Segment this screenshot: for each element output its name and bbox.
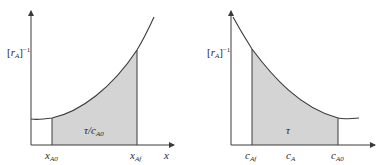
- left-tick-x-a0: xA0: [44, 149, 58, 163]
- left-plot: [rA]−1 τ/cA0 xA0 xAf x: [7, 11, 174, 163]
- right-tick-c-af: cAf: [245, 149, 257, 163]
- levenspiel-plots: [rA]−1 τ/cA0 xA0 xAf x [rA]−1 τ: [0, 0, 380, 165]
- left-x-axis-label: x: [163, 149, 169, 161]
- right-tick-c-a: cA: [286, 149, 296, 163]
- left-tick-x-af: xAf: [129, 149, 142, 163]
- right-plot: [rA]−1 τ cAf cA cA0: [207, 11, 375, 163]
- right-tick-c-a0: cA0: [331, 149, 344, 163]
- left-y-axis-label: [rA]−1: [7, 46, 31, 60]
- right-shaded-area: [252, 49, 338, 145]
- right-y-axis-label: [rA]−1: [207, 46, 231, 60]
